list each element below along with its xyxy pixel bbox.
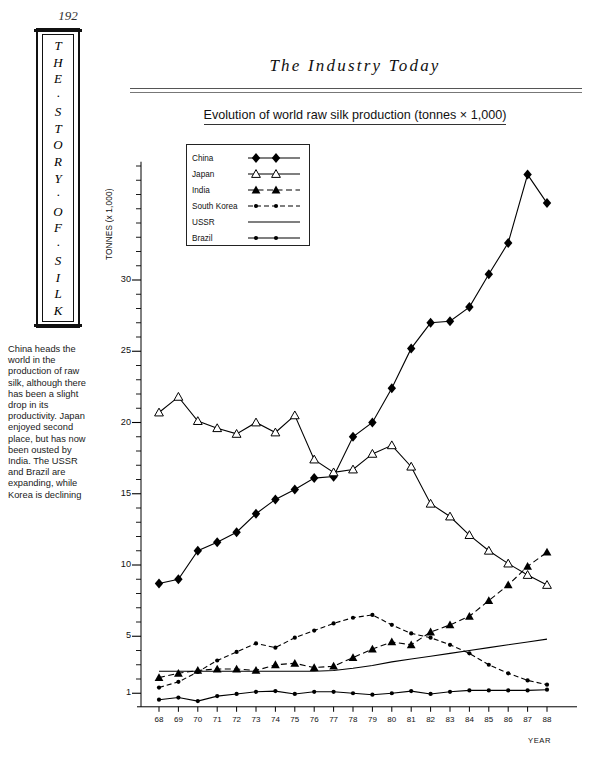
data-point-open-triangle (523, 571, 532, 579)
legend-symbol (246, 150, 304, 166)
data-point-dot (215, 694, 219, 698)
data-point-dot (312, 628, 316, 632)
legend-symbol (246, 198, 304, 214)
y-tick-label: 5 (107, 630, 131, 640)
data-point-diamond (485, 269, 493, 279)
x-tick-label: 81 (402, 715, 420, 724)
data-point-dot (196, 699, 200, 703)
legend-symbol-glyph (246, 198, 304, 214)
data-point-open-triangle (290, 411, 299, 419)
data-point-open-triangle (504, 559, 513, 567)
data-point-dot (409, 631, 413, 635)
data-point-diamond (446, 316, 454, 326)
x-tick-label: 84 (460, 715, 478, 724)
data-point-dot (487, 663, 491, 667)
legend-symbol (246, 182, 304, 198)
legend-item-ussr[interactable]: USSR (192, 214, 304, 230)
chart-plot (0, 0, 592, 779)
data-point-filled-triangle (504, 581, 513, 589)
data-point-dot (293, 636, 297, 640)
legend-item-india[interactable]: India (192, 182, 304, 198)
data-point-dot (176, 680, 180, 684)
y-tick-label: 10 (107, 559, 131, 569)
x-tick-label: 72 (228, 715, 246, 724)
data-point-dot (235, 692, 239, 696)
data-point-diamond (291, 484, 299, 494)
data-point-open-triangle (387, 441, 396, 449)
legend-item-japan[interactable]: Japan (192, 166, 304, 182)
x-tick-label: 75 (286, 715, 304, 724)
x-tick-label: 77 (325, 715, 343, 724)
data-point-dot (429, 692, 433, 696)
data-point-dot (429, 636, 433, 640)
data-point-dot (370, 693, 374, 697)
data-point-dot (545, 688, 549, 692)
x-tick-label: 71 (208, 715, 226, 724)
data-point-open-triangle (446, 512, 455, 520)
series-brazil (157, 688, 549, 704)
data-point-dot (312, 690, 316, 694)
y-tick-label: 20 (107, 417, 131, 427)
x-tick-label: 88 (538, 715, 556, 724)
data-point-diamond (465, 302, 473, 312)
legend-item-brazil[interactable]: Brazil (192, 230, 304, 246)
data-point-diamond (504, 238, 512, 248)
data-point-filled-triangle (387, 638, 396, 646)
data-point-dot (351, 616, 355, 620)
data-point-dot (273, 646, 277, 650)
data-point-dot (526, 688, 530, 692)
data-point-diamond (155, 579, 163, 589)
x-tick-label: 68 (150, 715, 168, 724)
legend-item-china[interactable]: China (192, 150, 304, 166)
x-axis-label: YEAR (528, 736, 551, 745)
data-point-dot (526, 678, 530, 682)
x-tick-label: 87 (519, 715, 537, 724)
data-point-dot (293, 692, 297, 696)
x-tick-label: 78 (344, 715, 362, 724)
legend-symbol (246, 214, 304, 230)
data-point-dot (215, 658, 219, 662)
data-point-diamond (368, 418, 376, 428)
legend-label: Japan (192, 170, 246, 179)
data-point-dot (390, 691, 394, 695)
series-india (155, 548, 552, 681)
data-point-dot (157, 685, 161, 689)
legend-item-south-korea[interactable]: South Korea (192, 198, 304, 214)
data-point-diamond (213, 537, 221, 547)
data-point-dot (467, 688, 471, 692)
data-point-open-triangle (426, 499, 435, 507)
data-point-dot (332, 690, 336, 694)
data-point-dot (254, 641, 258, 645)
data-point-dot (390, 623, 394, 627)
y-tick-label: 25 (107, 345, 131, 355)
legend-symbol-glyph (246, 166, 304, 182)
x-tick-label: 76 (305, 715, 323, 724)
data-point-open-triangle (174, 392, 183, 400)
data-point-dot (506, 671, 510, 675)
data-point-dot (448, 690, 452, 694)
data-point-dot (332, 621, 336, 625)
x-tick-label: 82 (422, 715, 440, 724)
legend-symbol-glyph (246, 230, 304, 246)
legend-symbol (246, 166, 304, 182)
x-tick-label: 74 (266, 715, 284, 724)
data-point-dot (273, 689, 277, 693)
data-point-diamond (252, 153, 260, 163)
data-point-open-triangle (349, 465, 358, 473)
data-point-dot (506, 688, 510, 692)
series-line (159, 615, 547, 688)
x-tick-label: 80 (383, 715, 401, 724)
chart-legend: ChinaJapanIndiaSouth KoreaUSSRBrazil (186, 144, 310, 246)
data-point-open-triangle (310, 455, 319, 463)
data-point-filled-triangle (446, 620, 455, 628)
legend-symbol-glyph (246, 214, 304, 230)
data-point-dot (176, 695, 180, 699)
legend-label: South Korea (192, 202, 246, 211)
data-point-filled-triangle (523, 562, 532, 570)
x-tick-label: 86 (499, 715, 517, 724)
data-point-filled-triangle (407, 640, 416, 648)
data-point-dot (254, 236, 258, 240)
legend-label: China (192, 154, 246, 163)
data-point-filled-triangle (484, 596, 493, 604)
data-point-open-triangle (252, 418, 261, 426)
